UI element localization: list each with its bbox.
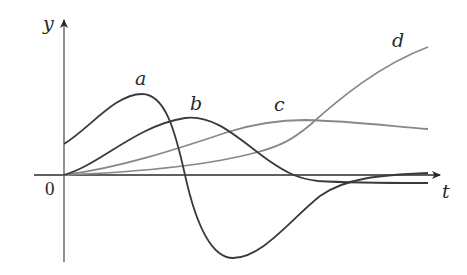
graph-canvas: y t 0 a b c d — [0, 0, 467, 275]
origin-label: 0 — [45, 178, 55, 199]
curve-a — [64, 94, 428, 258]
curve-c-label: c — [274, 93, 285, 115]
curve-d — [64, 47, 428, 175]
curve-a-label: a — [135, 67, 146, 89]
curve-b-label: b — [190, 92, 202, 114]
y-axis-label: y — [42, 12, 54, 34]
curve-c — [64, 120, 428, 175]
curve-d-label: d — [392, 29, 404, 51]
x-axis-label: t — [442, 180, 450, 202]
